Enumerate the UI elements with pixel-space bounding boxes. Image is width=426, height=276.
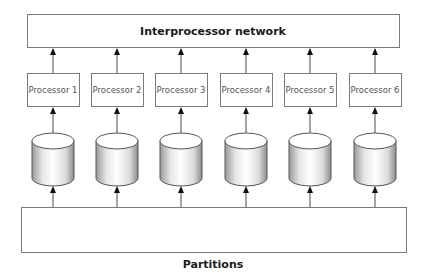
- interprocessor-network: Interprocessor network: [28, 15, 400, 48]
- arrow-processor-to-network: [307, 48, 313, 73]
- arrow-processor-to-network: [114, 48, 120, 73]
- processor-label: Processor 5: [285, 85, 334, 95]
- processor-6: Processor 6: [350, 74, 402, 107]
- processor-label: Processor 6: [350, 85, 399, 95]
- processor-label: Processor 3: [156, 85, 205, 95]
- processor-1: Processor 1: [28, 74, 80, 107]
- arrow-disk-to-processor: [243, 107, 249, 133]
- arrow-disk-to-processor: [114, 107, 120, 133]
- network-label: Interprocessor network: [140, 25, 287, 38]
- arrow-disk-to-processor: [307, 107, 313, 133]
- arrow-processor-to-network: [243, 48, 249, 73]
- processor-label: Processor 4: [221, 85, 270, 95]
- arrow-disk-to-processor: [372, 107, 378, 133]
- processor-2: Processor 2: [92, 74, 144, 107]
- disk-icon: [225, 133, 267, 186]
- arrow-processor-to-network: [372, 48, 378, 73]
- processor-5: Processor 5: [285, 74, 337, 107]
- processor-label: Processor 2: [92, 85, 141, 95]
- partitions-label: Partitions: [183, 258, 244, 271]
- disk-icon: [354, 133, 396, 186]
- arrow-disk-to-processor: [178, 107, 184, 133]
- disk-icon: [289, 133, 331, 186]
- disk-icon: [160, 133, 202, 186]
- diagram-canvas: Interprocessor network Processor 1Proces…: [0, 0, 426, 276]
- processor-4: Processor 4: [221, 74, 273, 107]
- arrow-disk-to-processor: [50, 107, 56, 133]
- partitions-container: [22, 208, 407, 253]
- processor-3: Processor 3: [156, 74, 208, 107]
- disk-icon: [32, 133, 74, 186]
- disk-icon: [96, 133, 138, 186]
- arrow-processor-to-network: [178, 48, 184, 73]
- processor-label: Processor 1: [28, 85, 77, 95]
- arrow-processor-to-network: [50, 48, 56, 73]
